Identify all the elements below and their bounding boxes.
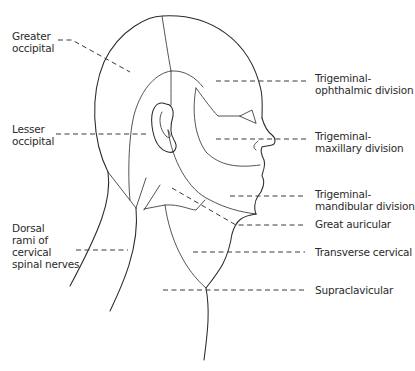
label-trigeminal-ophthalmic: Trigeminal- ophthalmic division xyxy=(315,72,414,96)
label-trigeminal-maxillary: Trigeminal- maxillary division xyxy=(315,130,404,154)
maxillary-mandibular-boundary xyxy=(194,88,260,166)
mandible-boundary xyxy=(168,130,256,214)
nostril xyxy=(254,141,258,150)
ophthalmic-maxillary-boundary xyxy=(196,88,240,116)
label-trigeminal-mandibular: Trigeminal- mandibular division xyxy=(315,188,415,212)
label-dorsal-rami: Dorsal rami of cervical spinal nerves xyxy=(12,222,79,270)
label-supraclavicular: Supraclavicular xyxy=(315,284,393,296)
neck-line-ear-to-junction xyxy=(136,178,160,210)
label-transverse-cervical: Transverse cervical xyxy=(315,246,412,258)
head-outline xyxy=(95,16,263,172)
label-greater-occipital: Greater occipital xyxy=(12,30,54,54)
neck-line-2 xyxy=(110,208,137,311)
label-great-auricular: Great auricular xyxy=(315,218,391,230)
label-lesser-occipital: Lesser occipital xyxy=(12,123,54,147)
anterior-neck-line xyxy=(165,205,206,288)
throat-line xyxy=(204,214,256,360)
face-profile xyxy=(255,118,275,214)
eye xyxy=(240,110,256,123)
neck-line-middle xyxy=(108,172,136,208)
vertex-division-line xyxy=(162,16,171,71)
ear xyxy=(152,103,176,152)
leader-greater-occipital xyxy=(58,40,130,72)
leader-great-auricular xyxy=(172,188,305,225)
